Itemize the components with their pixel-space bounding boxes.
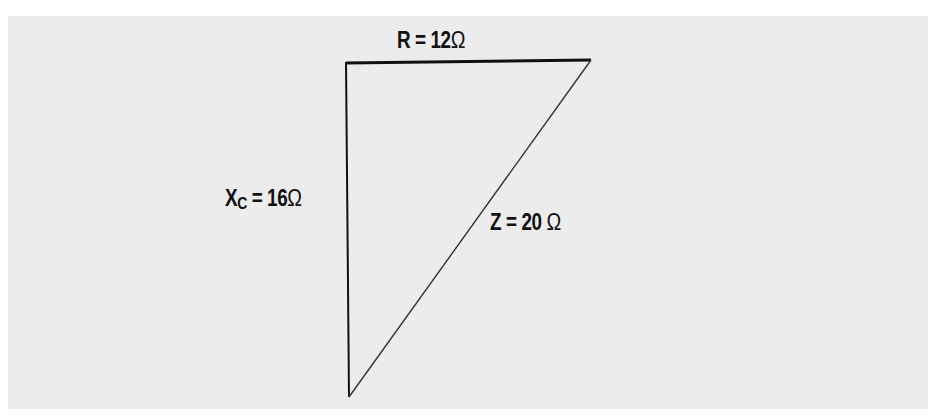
impedance-value: 20 [521,209,541,235]
ohm-unit: Ω [546,208,560,235]
impedance-triangle [0,0,942,420]
resistance-side-line [346,60,591,63]
impedance-equals: = [506,209,517,235]
resistance-value: 12 [430,27,450,53]
ohm-unit: Ω [451,26,465,53]
resistance-equals: = [415,27,426,53]
ohm-unit: Ω [287,184,301,211]
reactance-side-line [346,62,349,397]
reactance-symbol: X [225,185,237,211]
resistance-label: R = 12Ω [397,26,465,54]
impedance-symbol: Z [490,209,501,235]
reactance-subscript: C [237,194,247,213]
resistance-symbol: R [397,27,410,53]
impedance-label: Z = 20 Ω [490,208,561,236]
reactance-value: 16 [267,185,287,211]
capacitive-reactance-label: XC = 16Ω [225,184,302,212]
reactance-equals: = [252,185,263,211]
